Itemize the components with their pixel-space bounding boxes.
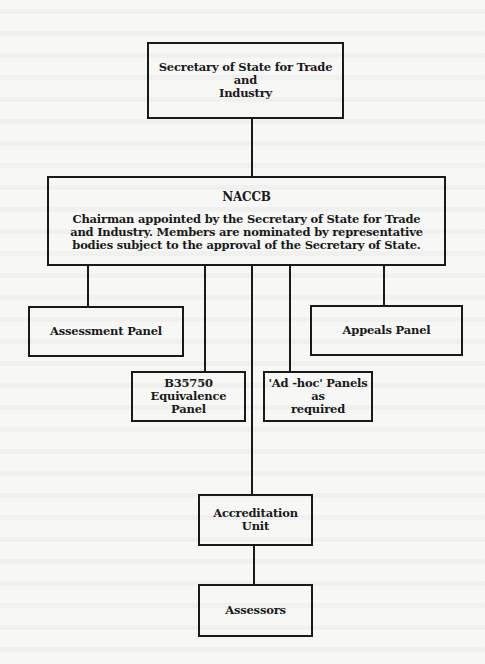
connector-naccb-to-adhoc-panels	[289, 264, 291, 372]
connector-naccb-to-accreditation-unit	[251, 264, 253, 495]
node-description: Chairman appointed by the Secretary of S…	[70, 213, 423, 252]
node-accreditation-unit: Accreditation Unit	[198, 494, 313, 546]
node-naccb: NACCB Chairman appointed by the Secretar…	[47, 176, 446, 266]
node-adhoc-panels: 'Ad -hoc' Panels as required	[263, 371, 373, 422]
node-label: Assessment Panel	[50, 325, 162, 338]
node-label: B35750 Equivalence Panel	[133, 377, 244, 416]
node-assessment-panel: Assessment Panel	[28, 306, 184, 357]
connector-naccb-to-b35750-panel	[204, 264, 206, 372]
node-assessors: Assessors	[198, 584, 313, 637]
node-label: Assessors	[225, 604, 286, 617]
node-title: NACCB	[222, 191, 271, 204]
node-b35750-equivalence-panel: B35750 Equivalence Panel	[131, 371, 246, 422]
node-label: Secretary of State for Trade and Industr…	[149, 61, 342, 100]
node-secretary-of-state: Secretary of State for Trade and Industr…	[147, 42, 344, 119]
node-appeals-panel: Appeals Panel	[310, 305, 463, 356]
connector-naccb-to-assessment-panel	[87, 264, 89, 307]
connector-naccb-to-appeals-panel	[383, 264, 385, 306]
connector-secretary-to-naccb	[251, 117, 253, 177]
connector-accreditation-unit-to-assessors	[253, 544, 255, 585]
node-label: Accreditation Unit	[213, 507, 298, 533]
node-label: 'Ad -hoc' Panels as required	[265, 377, 371, 416]
node-label: Appeals Panel	[343, 324, 431, 337]
